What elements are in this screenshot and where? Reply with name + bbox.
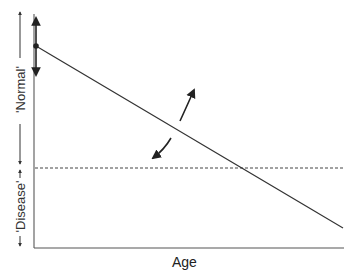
slope-down-arrow <box>153 138 171 158</box>
normal-band-label: 'Normal' <box>13 58 28 122</box>
diagram-canvas <box>0 0 352 280</box>
diagram-figure: 'Normal' 'Disease' Age <box>0 0 352 280</box>
disease-band-label: 'Disease' <box>13 175 28 239</box>
x-axis-label: Age <box>172 254 197 270</box>
slope-up-arrow <box>180 90 194 121</box>
trajectory-line <box>36 46 343 228</box>
